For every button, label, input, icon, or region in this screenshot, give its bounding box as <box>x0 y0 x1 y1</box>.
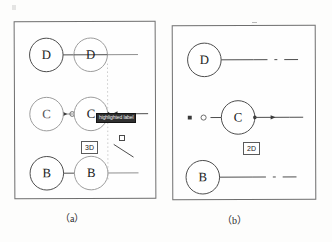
panel-b-drawing: D C B <box>173 26 316 199</box>
figure-root: D D C C B <box>0 0 332 242</box>
node-c-left-label: C <box>42 107 51 121</box>
dimension-tag-2d[interactable]: 2D <box>243 142 260 155</box>
node-d-left-label: D <box>42 48 51 62</box>
node-d-right-label: D <box>86 48 95 62</box>
panel-b-2d[interactable]: D C B <box>172 25 317 201</box>
node-b-b-label: B <box>199 170 208 184</box>
node-b-d-label: D <box>200 53 209 67</box>
caption-panel-a: （a） <box>60 210 84 225</box>
scan-artifact-tick <box>252 22 257 23</box>
dimension-tag-3d[interactable]: 3D <box>81 141 98 154</box>
marker-ring-c <box>201 115 206 120</box>
marker-square-c <box>188 116 192 120</box>
scan-artifact-speck <box>12 5 16 10</box>
annotation-tooltip-label[interactable]: highlighted label <box>96 113 136 123</box>
panel-a-3d[interactable]: D D C C B <box>14 21 157 200</box>
callout-endpoint-marker <box>119 135 125 141</box>
node-b-right-label: B <box>87 166 96 180</box>
arrowhead-b-c <box>271 115 276 119</box>
node-b-left-label: B <box>43 166 52 180</box>
alignment-guide-line <box>107 64 108 182</box>
node-c-right-label: C <box>87 107 96 121</box>
caption-panel-b: （b） <box>222 212 247 227</box>
node-b-c-label: C <box>234 110 243 124</box>
callout-leader-line <box>114 144 134 157</box>
panel-a-drawing: D D C C B <box>15 22 156 199</box>
